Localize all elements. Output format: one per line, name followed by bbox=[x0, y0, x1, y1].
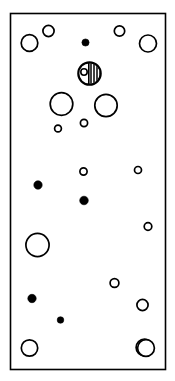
open-circle bbox=[140, 35, 157, 52]
filled-circle bbox=[82, 39, 89, 46]
filled-circle bbox=[80, 196, 89, 205]
open-circle bbox=[21, 35, 38, 52]
open-circle bbox=[144, 223, 152, 231]
filled-circle bbox=[28, 294, 36, 302]
inclusion-circle bbox=[81, 69, 87, 75]
hatched-marker-group bbox=[78, 60, 100, 86]
open-circle bbox=[55, 125, 62, 132]
open-circle bbox=[114, 26, 124, 36]
open-circle bbox=[80, 168, 87, 175]
open-circle bbox=[21, 340, 37, 356]
open-circle bbox=[95, 94, 117, 116]
open-circle bbox=[137, 299, 148, 310]
filled-circle bbox=[34, 181, 42, 189]
open-circle bbox=[50, 93, 73, 116]
figure-container bbox=[0, 0, 175, 381]
open-circle bbox=[26, 233, 49, 256]
circle-field-figure bbox=[0, 0, 175, 381]
open-circle bbox=[110, 279, 119, 288]
figure-background bbox=[0, 0, 175, 381]
hatched-circle-marker bbox=[78, 60, 100, 86]
open-circle bbox=[43, 25, 54, 36]
filled-circle bbox=[57, 317, 64, 324]
open-circle bbox=[80, 119, 87, 126]
open-circle bbox=[138, 340, 155, 357]
open-circle bbox=[135, 167, 142, 174]
